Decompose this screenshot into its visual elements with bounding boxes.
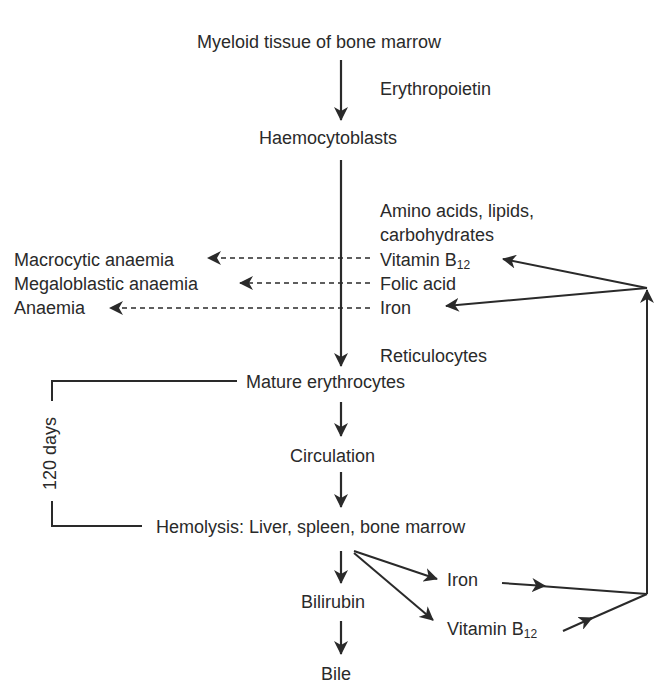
node-iron-recycled: Iron <box>447 570 478 590</box>
label-120-days: 120 days <box>40 417 61 490</box>
arrow-hemolysis-to-b12 <box>354 553 433 620</box>
node-bile: Bile <box>321 664 351 684</box>
node-vitamin-b12-recycled: Vitamin B12 <box>447 619 537 639</box>
line-b12-return <box>563 618 592 631</box>
node-hemolysis: Hemolysis: Liver, spleen, bone marrow <box>156 517 465 537</box>
node-circulation: Circulation <box>290 446 375 466</box>
label-nutrients-line2: carbohydrates <box>380 225 494 245</box>
node-folic-acid: Folic acid <box>380 274 456 294</box>
node-macrocytic-anaemia: Macrocytic anaemia <box>14 250 174 270</box>
arrow-return-to-b12 <box>503 259 647 288</box>
connector-lines <box>0 0 663 692</box>
arrow-return-to-iron <box>446 288 647 306</box>
label-nutrients-line1: Amino acids, lipids, <box>380 201 534 221</box>
lifespan-bracket-top <box>52 381 237 401</box>
node-haemocytoblasts: Haemocytoblasts <box>259 128 397 148</box>
node-vitamin-b12-top: Vitamin B12 <box>380 250 470 270</box>
node-mature-erythrocytes: Mature erythrocytes <box>246 372 405 392</box>
node-iron-top: Iron <box>380 298 411 318</box>
arrow-hemolysis-to-iron <box>354 551 437 579</box>
node-bilirubin: Bilirubin <box>301 592 365 612</box>
node-megaloblastic-anaemia: Megaloblastic anaemia <box>14 274 198 294</box>
label-reticulocytes: Reticulocytes <box>380 346 487 366</box>
erythropoiesis-diagram: Myeloid tissue of bone marrow Erythropoi… <box>0 0 663 692</box>
line-iron-return <box>502 583 545 586</box>
node-myeloid-tissue: Myeloid tissue of bone marrow <box>197 32 441 52</box>
node-anaemia: Anaemia <box>14 298 85 318</box>
label-erythropoietin: Erythropoietin <box>380 79 491 99</box>
lifespan-bracket-bottom <box>52 501 142 526</box>
